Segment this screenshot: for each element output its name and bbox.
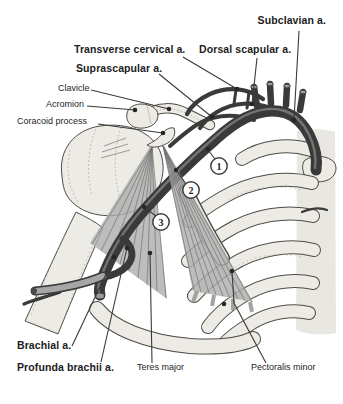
marker-3-number: 3	[159, 217, 164, 228]
label-acromion: Acromion	[46, 100, 84, 109]
label-transverse-cervical-artery: Transverse cervical a.	[74, 44, 185, 55]
label-coracoid-process: Coracoid process	[17, 117, 87, 126]
label-profunda-brachii-artery: Profunda brachii a.	[17, 362, 114, 373]
marker-1-number: 1	[217, 161, 222, 172]
label-brachial-artery: Brachial a.	[17, 340, 71, 351]
label-dorsal-scapular-artery: Dorsal scapular a.	[199, 44, 291, 55]
acromion-bone	[127, 104, 158, 128]
axillary-part-1-marker: 1	[206, 147, 227, 174]
label-clavicle: Clavicle	[58, 84, 90, 93]
marker-2-number: 2	[189, 185, 194, 196]
humeral-shaft	[25, 212, 103, 334]
anatomy-diagram: 1 2 3 Subclavian a. Transverse cervical …	[0, 0, 343, 404]
label-pectoralis-minor: Pectoralis minor	[251, 363, 316, 372]
label-suprascapular-artery: Suprascapular a.	[76, 63, 162, 74]
label-subclavian-artery: Subclavian a.	[258, 15, 326, 26]
label-teres-major: Teres major	[137, 363, 184, 372]
